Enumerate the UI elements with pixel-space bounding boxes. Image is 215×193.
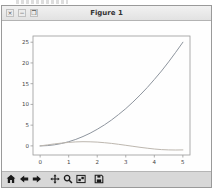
window-titlebar: Figure 1 × − ❒ (2, 6, 211, 21)
figure-window: Figure 1 × − ❒ 0123450510152025 (1, 5, 212, 188)
close-button[interactable]: × (6, 9, 14, 17)
toolbar-separator (44, 174, 48, 186)
line-chart: 0123450510152025 (2, 21, 211, 171)
svg-text:10: 10 (22, 101, 29, 107)
home-button[interactable] (5, 174, 17, 186)
subplots-button[interactable] (75, 174, 87, 186)
svg-text:1: 1 (67, 159, 71, 165)
svg-text:5: 5 (26, 122, 30, 128)
svg-text:0: 0 (26, 143, 30, 149)
home-icon (6, 172, 16, 187)
window-controls: × − ❒ (2, 9, 38, 17)
svg-text:4: 4 (153, 159, 157, 165)
cropped-text-artifact (16, 0, 68, 4)
toolbar-separator (88, 174, 92, 186)
svg-text:0: 0 (38, 159, 42, 165)
svg-text:25: 25 (22, 39, 29, 45)
forward-button[interactable] (31, 174, 43, 186)
navigation-toolbar (2, 171, 211, 187)
subplots-icon (76, 172, 86, 187)
back-button[interactable] (18, 174, 30, 186)
move-icon (50, 172, 60, 187)
svg-text:15: 15 (22, 81, 29, 87)
arrow-right-icon (32, 172, 42, 187)
maximize-button[interactable]: ❒ (30, 9, 38, 17)
svg-text:5: 5 (181, 159, 185, 165)
figure-canvas[interactable]: 0123450510152025 (2, 21, 211, 171)
svg-text:2: 2 (95, 159, 99, 165)
minimize-button[interactable]: − (18, 9, 26, 17)
floppy-icon (94, 172, 104, 187)
magnifier-icon (63, 172, 73, 187)
svg-text:3: 3 (124, 159, 128, 165)
save-button[interactable] (93, 174, 105, 186)
arrow-left-icon (19, 172, 29, 187)
svg-text:20: 20 (22, 60, 29, 66)
zoom-button[interactable] (62, 174, 74, 186)
pan-button[interactable] (49, 174, 61, 186)
